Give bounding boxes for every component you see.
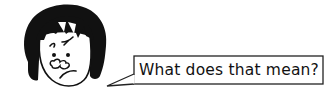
speech-bubble-text: What does that mean? — [137, 58, 321, 82]
face — [39, 32, 91, 87]
comic-panel: What does that mean? — [0, 0, 335, 101]
character-illustration — [0, 0, 335, 101]
